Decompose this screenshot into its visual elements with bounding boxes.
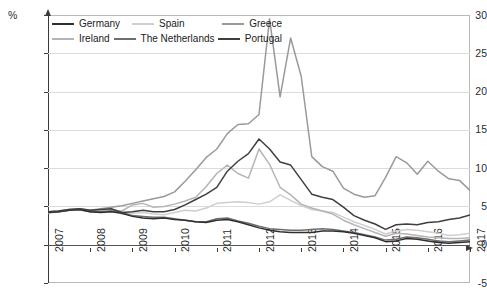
y-tick-mark	[44, 283, 48, 284]
series-line-greece	[48, 19, 470, 212]
legend-item-portugal: Portugal	[218, 34, 282, 44]
series-layer	[48, 15, 470, 283]
legend-swatch-spain	[132, 23, 154, 25]
series-line-the-netherlands	[48, 209, 470, 241]
legend-swatch-ireland	[52, 38, 74, 40]
legend-label-spain: Spain	[159, 19, 185, 29]
legend-label-portugal: Portugal	[245, 34, 282, 44]
legend-item-ireland: Ireland	[52, 34, 114, 44]
series-line-portugal	[48, 139, 470, 229]
legend-swatch-netherlands	[114, 38, 136, 40]
legend-label-germany: Germany	[79, 19, 120, 29]
legend-swatch-germany	[52, 23, 74, 25]
y-axis-unit-label: %	[8, 9, 17, 21]
legend-label-ireland: Ireland	[79, 34, 110, 44]
legend: Germany Spain Greece Ireland The Netherl…	[52, 16, 282, 46]
x-tick-label: 2017	[475, 228, 487, 252]
legend-item-netherlands: The Netherlands	[114, 34, 218, 44]
legend-swatch-portugal	[218, 38, 240, 40]
legend-row-2: Ireland The Netherlands Portugal	[52, 31, 282, 46]
x-tick-mark	[470, 248, 471, 252]
legend-item-germany: Germany	[52, 19, 132, 29]
legend-swatch-greece	[222, 23, 244, 25]
legend-item-greece: Greece	[222, 19, 282, 29]
series-line-spain	[48, 195, 470, 236]
legend-label-greece: Greece	[249, 19, 282, 29]
line-chart: % 302520151050-5 20072008200920102011201…	[0, 0, 487, 305]
legend-label-netherlands: The Netherlands	[141, 34, 215, 44]
legend-row-1: Germany Spain Greece	[52, 16, 282, 31]
legend-item-spain: Spain	[132, 19, 222, 29]
